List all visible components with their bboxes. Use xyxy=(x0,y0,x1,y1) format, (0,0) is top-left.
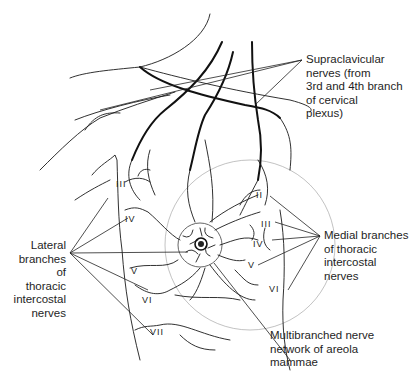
svg-text:VII: VII xyxy=(150,327,164,337)
label-supraclavicular-nerves: Supraclavicular nerves (from 3rd and 4th… xyxy=(306,53,403,121)
svg-text:V: V xyxy=(131,266,138,276)
label-lateral-branches: Lateral branches of thoracic intercostal… xyxy=(6,239,66,320)
svg-text:VI: VI xyxy=(142,295,153,305)
svg-text:V: V xyxy=(248,260,255,270)
lateral-numerals: III IV V VI VII xyxy=(116,179,164,337)
supraclavicular-nerves xyxy=(40,14,311,222)
svg-text:II: II xyxy=(256,190,263,200)
svg-text:IV: IV xyxy=(253,239,264,249)
areola-nerve-network xyxy=(183,228,215,262)
breast-contour xyxy=(165,160,335,330)
breast-innervation-diagram: III IV V VI VII II III IV V VI Supraclav… xyxy=(0,0,415,378)
svg-text:VI: VI xyxy=(269,284,280,294)
label-medial-branches: Medial branches of thoracic intercostal … xyxy=(324,229,408,283)
svg-text:III: III xyxy=(261,219,272,229)
label-areola-network: Multibranched nerve network of areola ma… xyxy=(270,329,374,370)
svg-text:III: III xyxy=(116,179,127,189)
svg-text:IV: IV xyxy=(125,214,136,224)
